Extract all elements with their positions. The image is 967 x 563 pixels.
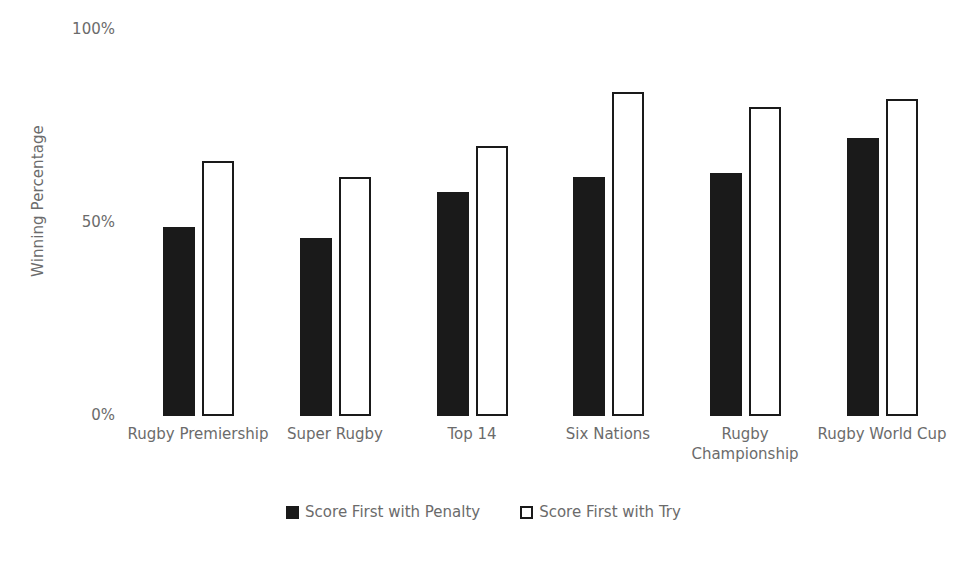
x-label-rugby-premiership: Rugby Premiership [123,424,273,444]
bar-try-rugby-world-cup[interactable] [886,99,918,416]
bar-chart: Winning Percentage 100% 50% 0% [0,0,967,563]
y-axis-title: Winning Percentage [29,101,47,301]
legend-item-score-first-with-penalty[interactable]: Score First with Penalty [286,503,480,521]
bar-try-rugby-championship[interactable] [749,107,781,416]
bar-penalty-super-rugby[interactable] [300,238,332,416]
legend-item-score-first-with-try[interactable]: Score First with Try [520,503,681,521]
plot-area [130,30,950,416]
x-label-top-14: Top 14 [397,424,547,444]
legend-label-penalty: Score First with Penalty [305,503,480,521]
x-label-rugby-world-cup: Rugby World Cup [807,424,957,444]
bar-group-top-14 [437,30,508,416]
bar-try-rugby-premiership[interactable] [202,161,234,416]
bar-group-six-nations [573,30,644,416]
bar-try-six-nations[interactable] [612,92,644,416]
bar-try-top-14[interactable] [476,146,508,416]
bar-group-super-rugby [300,30,371,416]
bar-try-super-rugby[interactable] [339,177,371,416]
bar-group-rugby-premiership [163,30,234,416]
x-label-six-nations: Six Nations [533,424,683,444]
legend-label-try: Score First with Try [539,503,681,521]
x-label-rugby-championship: Rugby Championship [670,424,820,465]
y-tick-label-0: 0% [55,408,115,423]
bar-penalty-six-nations[interactable] [573,177,605,416]
chart-legend: Score First with Penalty Score First wit… [0,503,967,521]
bar-penalty-rugby-premiership[interactable] [163,227,195,416]
bar-group-rugby-world-cup [847,30,918,416]
outlined-square-icon [520,506,533,519]
y-tick-label-50: 50% [55,215,115,230]
filled-square-icon [286,506,299,519]
bar-penalty-rugby-championship[interactable] [710,173,742,416]
bar-penalty-rugby-world-cup[interactable] [847,138,879,416]
bar-penalty-top-14[interactable] [437,192,469,416]
bar-group-rugby-championship [710,30,781,416]
x-label-super-rugby: Super Rugby [260,424,410,444]
y-tick-label-100: 100% [55,22,115,37]
